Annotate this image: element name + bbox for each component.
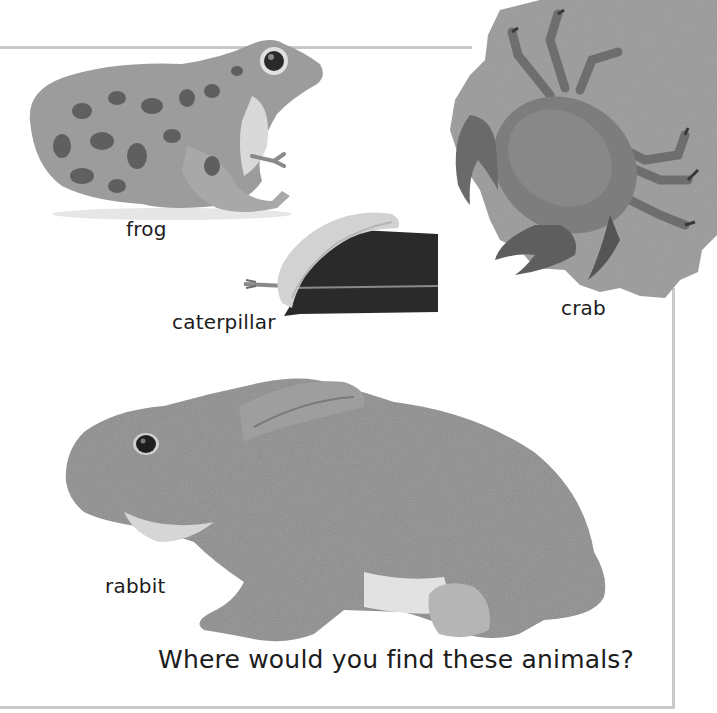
caterpillar-photo: [242, 208, 442, 318]
question-text: Where would you find these animals?: [158, 645, 634, 674]
frame-bottom-line: [0, 706, 675, 709]
frog-label: frog: [126, 217, 167, 241]
rabbit-photo: [64, 372, 612, 652]
rabbit-label: rabbit: [105, 574, 165, 598]
frame-right-line: [672, 288, 675, 709]
caterpillar-label: caterpillar: [172, 310, 276, 334]
crab-label: crab: [561, 296, 606, 320]
frog-photo: [22, 36, 330, 221]
crab-photo: [440, 0, 717, 300]
